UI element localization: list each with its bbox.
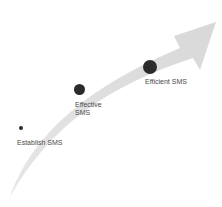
stage-label-establish: Establish SMS xyxy=(17,139,63,147)
stage-label-efficient-text: Efficient SMS xyxy=(145,78,187,85)
stage-label-effective-line1: Effective xyxy=(75,101,102,109)
stage-dot-efficient xyxy=(143,60,157,74)
stage-dot-effective xyxy=(74,84,85,95)
growth-arrow-icon xyxy=(0,0,222,207)
stage-label-efficient: Efficient SMS xyxy=(145,78,187,86)
stage-label-establish-text: Establish SMS xyxy=(17,139,63,146)
stage-dot-establish xyxy=(19,126,23,130)
stage-label-effective: Effective SMS xyxy=(75,101,102,117)
stage-label-effective-line2: SMS xyxy=(75,109,102,117)
